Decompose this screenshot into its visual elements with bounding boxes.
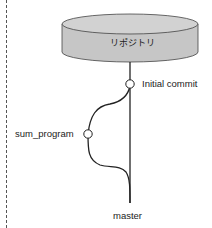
- git-diagram: [0, 0, 212, 228]
- master-label: master: [113, 210, 142, 221]
- branch-line: [88, 86, 130, 203]
- repository-label: リポジトリ: [110, 36, 155, 49]
- sum-program-node[interactable]: [84, 130, 92, 138]
- sum-program-label: sum_program: [15, 128, 74, 139]
- initial-commit-label: Initial commit: [142, 78, 197, 89]
- initial-commit-node[interactable]: [126, 80, 134, 88]
